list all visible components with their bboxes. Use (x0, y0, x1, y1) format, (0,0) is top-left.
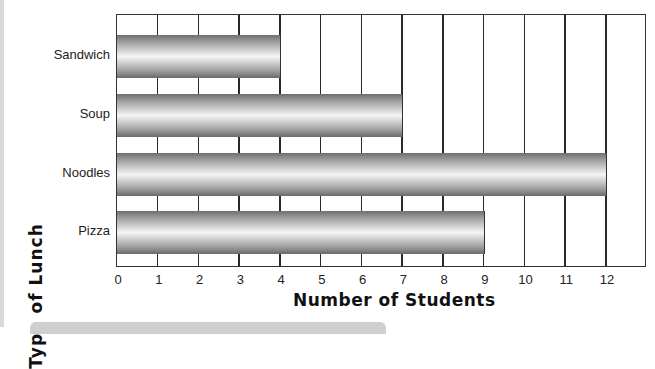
plot-area (116, 14, 646, 267)
chart-title-cropped (300, 0, 620, 4)
category-label: Pizza (78, 223, 110, 238)
x-tick-label: 6 (359, 272, 366, 287)
y-axis-title: Type of Lunch (26, 223, 46, 369)
x-tick-label: 3 (237, 272, 244, 287)
x-tick-label: 7 (400, 272, 407, 287)
x-tick-label: 0 (114, 272, 121, 287)
gridline (524, 15, 526, 266)
page-edge-strip (0, 0, 4, 327)
x-tick-label: 8 (440, 272, 447, 287)
gridline (564, 15, 566, 266)
category-label: Soup (80, 106, 110, 121)
footer-panel-edge (30, 322, 386, 334)
x-tick-label: 9 (481, 272, 488, 287)
x-tick-label: 2 (196, 272, 203, 287)
bar-pizza (117, 211, 485, 254)
category-label: Noodles (62, 165, 110, 180)
gridline (605, 15, 607, 266)
bar-soup (117, 94, 403, 137)
x-tick-label: 4 (277, 272, 284, 287)
x-tick-label: 1 (155, 272, 162, 287)
x-axis-title: Number of Students (293, 290, 496, 310)
category-label: Sandwich (54, 47, 110, 62)
bar-sandwich (117, 35, 281, 78)
x-tick-label: 11 (560, 272, 574, 287)
x-tick-label: 12 (600, 272, 614, 287)
bar-noodles (117, 153, 607, 196)
x-tick-label: 5 (318, 272, 325, 287)
x-tick-label: 10 (518, 272, 532, 287)
